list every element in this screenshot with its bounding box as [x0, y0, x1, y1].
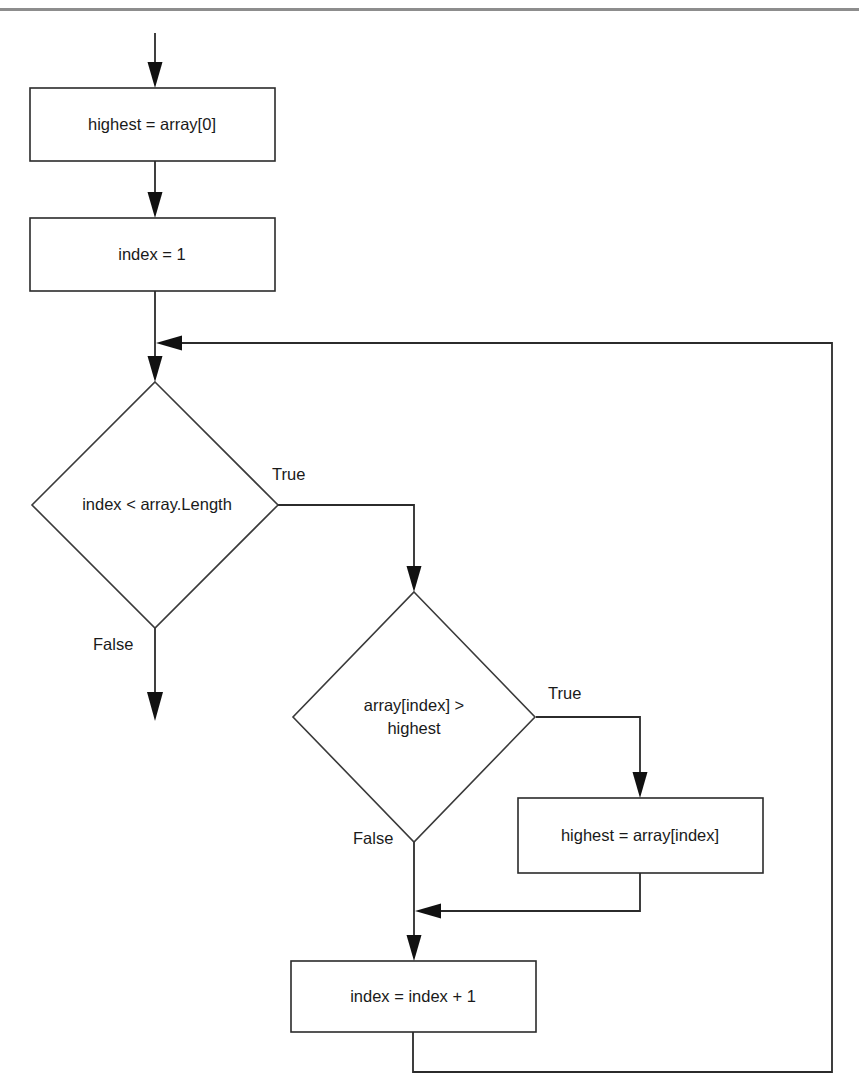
node-increment-index-label: index = index + 1 — [350, 987, 476, 1005]
edge-compare-true-to-assign — [536, 717, 648, 798]
edge-label-compare-true: True — [548, 684, 581, 702]
edge-init-highest-to-init-index — [148, 161, 163, 218]
node-loop-condition-label: index < array.Length — [82, 495, 232, 513]
edge-assign-highest-to-merge — [415, 873, 640, 919]
node-compare-condition-label-line1: array[index] > — [364, 696, 464, 714]
edge-label-loop-false: False — [93, 635, 133, 653]
edge-label-compare-false: False — [353, 829, 393, 847]
node-assign-highest-label: highest = array[index] — [561, 826, 719, 844]
edge-loop-true-to-compare — [272, 505, 422, 592]
edge-label-loop-true: True — [272, 465, 305, 483]
node-compare-condition[interactable]: array[index] > highest — [293, 592, 535, 842]
edge-compare-false-to-increment — [407, 840, 422, 961]
flowchart-canvas: highest = array[0] index = 1 index < arr… — [0, 0, 859, 1091]
node-increment-index[interactable]: index = index + 1 — [291, 961, 536, 1032]
flowchart-svg: highest = array[0] index = 1 index < arr… — [0, 0, 859, 1091]
edge-loop-false-to-exit — [147, 628, 163, 721]
node-init-highest[interactable]: highest = array[0] — [30, 88, 275, 161]
node-compare-condition-label-line2: highest — [387, 719, 441, 737]
edge-init-index-to-loop-condition — [148, 291, 163, 382]
node-init-highest-label: highest = array[0] — [88, 115, 216, 133]
node-loop-condition[interactable]: index < array.Length — [32, 382, 278, 628]
node-init-index[interactable]: index = 1 — [30, 218, 275, 291]
edge-entry-to-init-highest — [148, 33, 163, 88]
node-init-index-label: index = 1 — [118, 245, 185, 263]
node-assign-highest[interactable]: highest = array[index] — [518, 798, 763, 873]
